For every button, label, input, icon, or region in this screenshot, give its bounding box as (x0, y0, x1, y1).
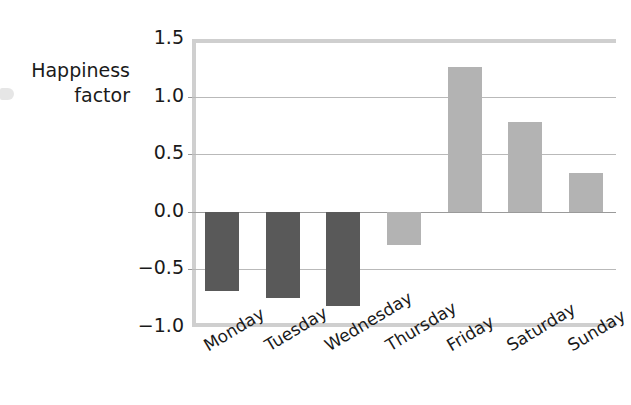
bar-thursday (387, 212, 421, 245)
y-tick-label-0: 1.5 (128, 26, 184, 48)
plot-area (192, 39, 616, 327)
gridline-0.5 (192, 154, 616, 155)
y-axis-title-line-1: Happiness (10, 58, 130, 83)
y-tick-label-3: 0.0 (128, 199, 184, 221)
y-tick-label-4: −0.5 (128, 256, 184, 278)
bar-tuesday (266, 212, 300, 298)
gridline--0.5 (192, 269, 616, 270)
gridline-1 (192, 97, 616, 98)
y-tick-label-1: 1.0 (128, 84, 184, 106)
y-tick-label-2: 0.5 (128, 141, 184, 163)
y-tick-label-5: −1.0 (128, 314, 184, 336)
bar-chart: Happiness factor 1.51.00.50.0−0.5−1.0 Mo… (0, 0, 631, 405)
bar-saturday (508, 122, 542, 212)
bar-sunday (569, 173, 603, 212)
y-axis-title: Happiness factor (10, 58, 130, 108)
plot-frame-top (192, 39, 616, 43)
y-axis-title-line-2: factor (10, 83, 130, 108)
bar-wednesday (326, 212, 360, 306)
bar-monday (205, 212, 239, 291)
plot-frame-left (192, 39, 196, 327)
bar-friday (448, 67, 482, 212)
